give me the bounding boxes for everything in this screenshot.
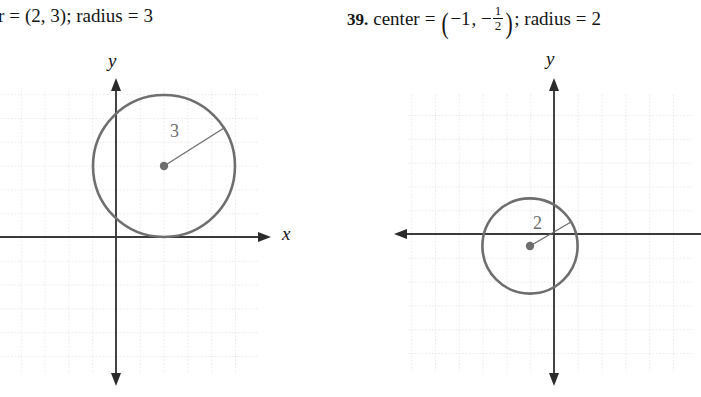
graph-left: y x 3 xyxy=(0,0,340,397)
center-dot-right xyxy=(526,242,534,250)
x-axis-label-left: x xyxy=(282,224,290,243)
graph-left-canvas xyxy=(0,0,340,397)
radius-value-label-left: 3 xyxy=(170,122,179,140)
textbook-exercise-page: r=(2, 3); radius=3 39.center=(−1, − 1 2 … xyxy=(0,0,701,397)
graph-right-canvas xyxy=(340,0,701,397)
y-axis-label-left: y xyxy=(108,51,116,70)
radius-value-label-right: 2 xyxy=(533,214,542,232)
graph-right: y 2 xyxy=(340,0,701,397)
center-dot-left xyxy=(160,162,168,170)
y-axis-label-right: y xyxy=(546,49,554,68)
